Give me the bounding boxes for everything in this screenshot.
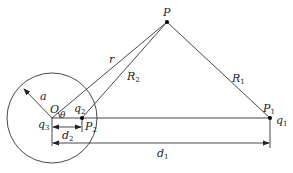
- label-q2: q2: [74, 102, 86, 116]
- point-P2: [80, 116, 84, 120]
- line-R2: [82, 22, 167, 118]
- label-theta: θ: [60, 110, 66, 120]
- point-P1: [268, 116, 272, 120]
- label-q1: q1: [276, 114, 288, 128]
- line-r: [52, 22, 167, 118]
- image-charge-diagram: P P1 q1 R1 R2 r a O θ q2 q3 P2 d2 d1: [0, 0, 293, 173]
- label-R1: R1: [231, 72, 245, 86]
- label-O: O: [50, 103, 59, 116]
- label-R2: R2: [126, 70, 140, 84]
- label-a: a: [40, 90, 47, 103]
- label-P1: P1: [262, 102, 275, 116]
- line-R1: [167, 22, 270, 118]
- label-d2: d2: [62, 129, 74, 143]
- label-q3: q3: [38, 118, 50, 132]
- label-P: P: [162, 6, 171, 19]
- radius-a-arrow: [24, 89, 52, 118]
- label-r: r: [109, 53, 115, 66]
- point-P: [165, 20, 169, 24]
- label-d1: d1: [157, 147, 169, 161]
- label-P2: P2: [84, 120, 97, 134]
